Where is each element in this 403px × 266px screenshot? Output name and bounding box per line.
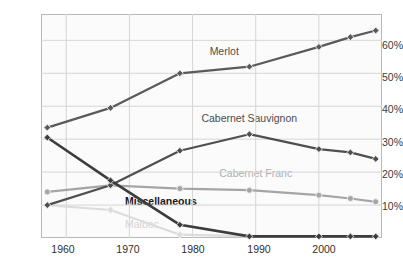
chart-canvas [0, 0, 403, 266]
data-series-group [44, 27, 379, 240]
line-chart: 60% 50% 40% 30% 20% 10% 1960 1970 1980 1… [0, 0, 403, 266]
gridlines [41, 14, 382, 238]
